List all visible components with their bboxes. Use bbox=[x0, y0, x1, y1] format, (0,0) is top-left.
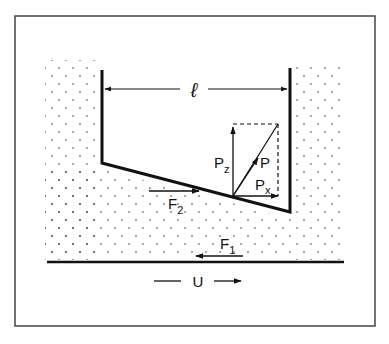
slider-bearing-diagram: ℓ Pz P Px F2 F1 U bbox=[0, 0, 389, 344]
svg-text:Px: Px bbox=[255, 176, 271, 196]
f2-subscript: 2 bbox=[177, 204, 183, 216]
pz-subscript: z bbox=[224, 163, 230, 175]
svg-text:Pz: Pz bbox=[214, 154, 230, 175]
velocity-u: U bbox=[154, 273, 241, 290]
p-label: P bbox=[260, 154, 270, 171]
px-subscript: x bbox=[265, 184, 271, 196]
u-label: U bbox=[193, 273, 204, 290]
force-decomposition: Pz P Px bbox=[214, 124, 278, 196]
f1-subscript: 1 bbox=[229, 244, 235, 256]
pz-label: P bbox=[214, 154, 224, 171]
f1-label: F bbox=[220, 235, 229, 252]
px-label: P bbox=[255, 176, 265, 193]
f2-label: F bbox=[168, 195, 177, 212]
length-dimension: ℓ bbox=[105, 79, 287, 101]
length-label: ℓ bbox=[190, 79, 199, 101]
